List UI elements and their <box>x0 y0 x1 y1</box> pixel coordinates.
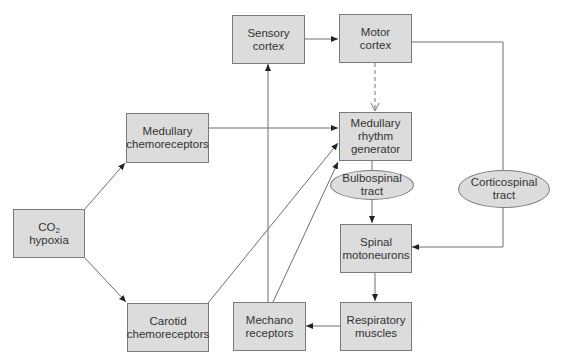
edge-co2-to-carotid-chemo <box>84 257 126 302</box>
respiratory-control-diagram: CO2 hypoxia Medullary chemoreceptors Car… <box>0 0 561 363</box>
node-label-line1: Respiratory <box>347 314 406 327</box>
node-mechano-receptors: Mechano receptors <box>233 302 306 351</box>
node-label-line1: Bulbospinal <box>342 172 401 185</box>
node-label-line2: motoneurons <box>342 249 409 262</box>
node-label-line1: Carotid <box>149 315 186 328</box>
node-label-line1: Mechano <box>246 314 293 327</box>
node-label-line3: generator <box>351 143 400 156</box>
node-corticospinal-tract: Corticospinal tract <box>458 170 550 208</box>
node-label-line2: receptors <box>246 327 294 340</box>
edge-motor-to-corticospinal <box>411 42 503 170</box>
node-label-line1: Motor <box>361 26 390 39</box>
node-label-line1: Sensory <box>247 27 289 40</box>
hypoxia-label: hypoxia <box>29 234 69 247</box>
node-medullary-rhythm-generator: Medullary rhythm generator <box>339 112 412 161</box>
node-label-line2: rhythm <box>358 130 393 143</box>
node-co2-hypoxia: CO2 hypoxia <box>13 209 85 258</box>
node-label-line1: Spinal <box>360 236 392 249</box>
node-label-line2: chemoreceptors <box>126 138 208 151</box>
node-sensory-cortex: Sensory cortex <box>232 15 305 64</box>
node-respiratory-muscles: Respiratory muscles <box>340 302 412 351</box>
node-label-line1: Medullary <box>143 125 193 138</box>
node-spinal-motoneurons: Spinal motoneurons <box>340 224 412 273</box>
edge-carotid-to-rhythm <box>208 143 338 303</box>
node-label-line1: Medullary <box>351 117 401 130</box>
node-label-line2: tract <box>361 185 383 198</box>
co2-label: CO2 <box>38 221 60 234</box>
node-label-line1: Corticospinal <box>471 176 537 189</box>
node-label-line2: chemoreceptors <box>127 328 209 341</box>
node-label-line2: muscles <box>355 327 397 340</box>
node-label-line2: cortex <box>360 39 391 52</box>
node-bulbospinal-tract: Bulbospinal tract <box>330 170 414 200</box>
edge-corticospinal-to-spinal <box>412 208 503 247</box>
node-motor-cortex: Motor cortex <box>339 14 412 63</box>
node-label-line2: cortex <box>253 40 284 53</box>
node-carotid-chemoreceptors: Carotid chemoreceptors <box>127 303 209 352</box>
node-label-line2: tract <box>493 189 515 202</box>
edge-co2-to-medullary-chemo <box>84 163 125 210</box>
node-medullary-chemoreceptors: Medullary chemoreceptors <box>126 113 209 163</box>
